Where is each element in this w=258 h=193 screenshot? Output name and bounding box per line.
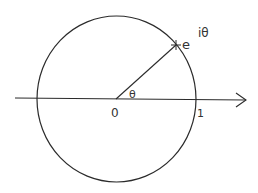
point-label-exponent: iθ bbox=[198, 26, 209, 40]
point-label-base: e bbox=[182, 37, 190, 52]
angle-label: θ bbox=[129, 88, 136, 101]
origin-label: 0 bbox=[111, 106, 119, 120]
unit-circle-diagram: 0 1 θ e iθ bbox=[0, 0, 258, 193]
one-label: 1 bbox=[197, 107, 204, 120]
radius-line bbox=[116, 45, 176, 99]
